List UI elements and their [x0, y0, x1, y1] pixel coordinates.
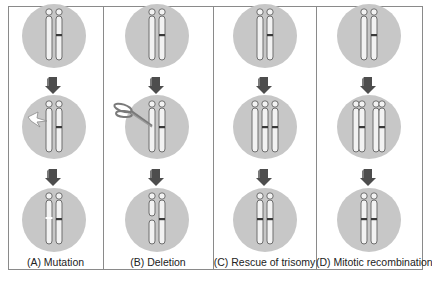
diagram-graphics	[0, 0, 432, 282]
down-arrow-icon	[45, 169, 61, 186]
panel-d-bottom-chromosomes	[361, 193, 377, 244]
down-arrow-icon	[360, 77, 376, 94]
panel-c-middle-chromosomes	[252, 101, 278, 152]
panel-b-bottom-chromosomes	[149, 193, 165, 244]
down-arrow-icon	[360, 169, 376, 186]
panel-d-top-chromosomes	[361, 9, 377, 60]
panel-c-bottom-chromosomes	[257, 193, 273, 244]
down-arrow-icon	[148, 169, 164, 186]
panel-label-c: (C) Rescue of trisomy	[213, 256, 316, 268]
down-arrow-icon	[148, 77, 164, 94]
panel-label-b: (B) Deletion	[103, 256, 213, 268]
down-arrow-icon	[45, 77, 61, 94]
panel-a-top-chromosomes	[46, 9, 62, 60]
panel-label-d: (D) Mitotic recombination	[316, 256, 423, 268]
panel-label-a: (A) Mutation	[8, 256, 103, 268]
panel-a-middle-chromosomes	[46, 101, 62, 152]
panel-c-top-chromosomes	[257, 9, 273, 60]
down-arrow-icon	[256, 169, 272, 186]
lightning-bolt-icon	[28, 112, 47, 127]
down-arrow-icon	[256, 77, 272, 94]
scissors-icon	[113, 102, 152, 127]
panel-d-middle-chromosomes	[353, 101, 385, 152]
panel-a-bottom-chromosomes	[46, 193, 63, 244]
panel-b-top-chromosomes	[149, 9, 165, 60]
